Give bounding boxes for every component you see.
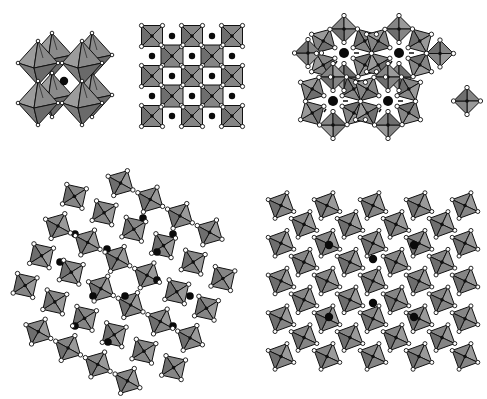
b-cation xyxy=(348,260,352,264)
anion xyxy=(335,330,339,334)
anion xyxy=(340,94,344,98)
anion xyxy=(81,262,85,266)
b-cation xyxy=(321,39,325,43)
anion xyxy=(476,285,480,289)
a-cation xyxy=(325,313,333,321)
anion xyxy=(424,51,428,55)
anion xyxy=(98,247,102,251)
tetragonal-bronze-panel xyxy=(266,191,480,372)
anion xyxy=(141,310,145,314)
anion xyxy=(331,109,335,113)
anion xyxy=(49,336,53,340)
anion xyxy=(108,269,112,273)
anion xyxy=(73,333,77,337)
octahedron-face xyxy=(295,40,308,53)
anion xyxy=(355,27,359,31)
anion xyxy=(60,101,64,105)
anion xyxy=(354,285,358,289)
anion xyxy=(377,191,381,195)
anion xyxy=(16,101,20,105)
anion xyxy=(434,235,438,239)
anion xyxy=(221,43,225,47)
anion xyxy=(110,93,114,97)
b-cation xyxy=(191,260,195,264)
b-cation xyxy=(371,279,375,283)
b-cation xyxy=(126,379,130,383)
b-cation xyxy=(407,87,411,91)
anion xyxy=(407,228,411,232)
b-cation xyxy=(190,74,194,78)
b-cation xyxy=(119,181,123,185)
anion xyxy=(450,273,454,277)
octahedron-face xyxy=(467,88,480,101)
b-cation xyxy=(302,298,306,302)
anion xyxy=(404,311,408,315)
b-cation xyxy=(205,306,209,310)
anion xyxy=(384,360,388,364)
anion xyxy=(377,342,381,346)
anion xyxy=(212,318,216,322)
anion xyxy=(476,247,480,251)
anion xyxy=(319,367,323,371)
anion xyxy=(213,264,217,268)
b-cation xyxy=(150,34,154,38)
anion xyxy=(365,254,369,258)
b-cation xyxy=(342,27,346,31)
anion xyxy=(400,285,404,289)
anion xyxy=(157,280,161,284)
octahedron-face xyxy=(295,53,308,66)
anion xyxy=(90,328,94,332)
anion xyxy=(106,274,110,278)
anion xyxy=(384,210,388,214)
b-cation xyxy=(96,363,100,367)
b-cation xyxy=(150,74,154,78)
anion xyxy=(273,330,277,334)
b-cation xyxy=(83,317,87,321)
anion xyxy=(83,355,87,359)
anion xyxy=(319,51,323,55)
anion xyxy=(395,104,399,108)
anion xyxy=(342,311,346,315)
anion xyxy=(322,94,326,98)
anion xyxy=(181,43,185,47)
anion xyxy=(322,104,326,108)
b-cation xyxy=(129,303,133,307)
anion xyxy=(410,27,414,31)
anion xyxy=(476,360,480,364)
anion xyxy=(411,292,415,296)
a-cation xyxy=(383,96,393,106)
anion xyxy=(353,80,357,84)
b-cation xyxy=(148,198,152,202)
anion xyxy=(171,326,175,330)
anion xyxy=(331,228,335,232)
a-cation xyxy=(121,292,129,300)
anion xyxy=(312,198,316,202)
anion xyxy=(457,367,461,371)
anion xyxy=(125,169,129,173)
anion xyxy=(56,101,60,105)
anion xyxy=(36,123,40,127)
a-cation xyxy=(339,48,349,58)
b-cation xyxy=(279,355,283,359)
anion xyxy=(273,216,277,220)
b-cation xyxy=(376,39,380,43)
anion xyxy=(165,307,169,311)
a-cation xyxy=(410,241,418,249)
anion xyxy=(51,246,55,250)
anion xyxy=(75,304,79,308)
anion xyxy=(219,23,223,27)
b-cation xyxy=(132,227,136,231)
anion xyxy=(309,70,313,74)
anion xyxy=(92,228,96,232)
anion xyxy=(159,105,163,109)
anion xyxy=(138,386,142,390)
anion xyxy=(451,99,455,103)
anion xyxy=(43,317,47,321)
anion xyxy=(404,198,408,202)
anion xyxy=(438,65,442,69)
anion xyxy=(35,276,39,280)
b-cation xyxy=(352,111,356,115)
anion xyxy=(296,235,300,239)
anion xyxy=(381,254,385,258)
anion xyxy=(358,198,362,202)
